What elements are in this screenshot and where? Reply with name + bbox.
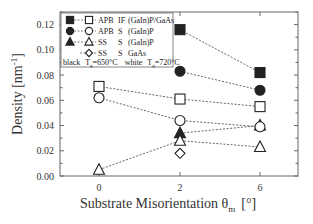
legend-material: GaAs — [128, 49, 146, 58]
filled-circle-marker — [66, 27, 73, 34]
legend-material: (GaIn)P/GaAs — [128, 16, 174, 25]
x-tick-label: 2 — [178, 182, 183, 193]
filled-square-marker — [255, 68, 265, 78]
legend-defect-type: SS — [98, 49, 107, 58]
legend-material: (GaIn)P — [128, 27, 154, 36]
y-tick-label: 0.10 — [37, 44, 55, 55]
open-circle-marker — [85, 27, 92, 34]
open-circle-marker — [255, 122, 265, 132]
series-line — [180, 71, 260, 90]
filled-square-marker — [175, 25, 185, 35]
y-tick-label: 0.00 — [37, 171, 55, 182]
y-tick-label: 0.04 — [37, 120, 55, 131]
legend-location: IF — [118, 16, 126, 25]
y-tick-label: 0.06 — [37, 95, 55, 106]
y-tick-label: 0.02 — [37, 145, 55, 156]
legend-material: (GaIn)P — [128, 38, 154, 47]
filled-square-marker — [66, 16, 73, 23]
open-circle-marker — [94, 93, 104, 103]
density-vs-misorientation-chart: 0.000.020.040.060.080.100.12 026 Density… — [0, 0, 313, 224]
x-tick-label: 6 — [258, 182, 263, 193]
legend: APBIF(GaIn)P/GaAsAPBS(GaIn)PSSS(GaIn)PSS… — [61, 13, 180, 68]
x-tick-label: 0 — [97, 182, 102, 193]
open-circle-marker — [175, 115, 185, 125]
filled-circle-marker — [255, 85, 265, 95]
legend-defect-type: SS — [98, 38, 107, 47]
legend-defect-type: APB — [98, 27, 114, 36]
x-axis-title: Substrate Misorientation θm[°] — [80, 196, 256, 214]
legend-defect-type: APB — [98, 16, 114, 25]
series-line — [180, 126, 260, 134]
open-square-marker — [255, 102, 265, 112]
open-square-marker — [85, 16, 92, 23]
open-diamond-marker — [175, 148, 185, 158]
legend-location: S — [118, 27, 122, 36]
series-line — [180, 30, 260, 73]
y-axis-title: Density [nm-1] — [9, 53, 25, 135]
open-triangle-marker — [94, 164, 105, 175]
open-square-marker — [175, 94, 185, 104]
open-square-marker — [94, 81, 104, 91]
y-tick-label: 0.08 — [37, 70, 55, 81]
filled-circle-marker — [175, 66, 185, 76]
legend-location: S — [118, 49, 122, 58]
legend-location: S — [118, 38, 122, 47]
y-tick-label: 0.12 — [37, 19, 55, 30]
